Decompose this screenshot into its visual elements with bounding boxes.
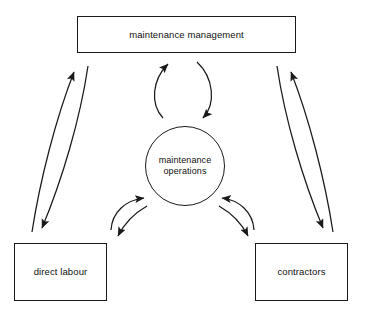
connector-direct-labour-to-operations [111, 198, 144, 230]
diagram-canvas: maintenance management maintenance opera… [0, 0, 367, 315]
node-label-direct-labour: direct labour [34, 266, 88, 278]
node-contractors[interactable]: contractors [255, 243, 348, 301]
connector-operations-to-contractors [219, 206, 248, 236]
connector-direct-labour-to-management [32, 72, 74, 232]
connector-operations-to-direct-labour [118, 206, 147, 236]
node-label-maintenance-operations-line2: operations [163, 166, 206, 178]
connector-management-to-contractors [277, 66, 323, 228]
connector-contractors-to-management [291, 72, 333, 232]
connector-management-to-direct-labour [42, 66, 88, 228]
node-label-maintenance-management: maintenance management [129, 29, 244, 41]
node-label-maintenance-operations-line1: maintenance [159, 155, 212, 167]
connector-contractors-to-operations [222, 198, 254, 230]
node-maintenance-operations[interactable]: maintenance operations [145, 126, 225, 206]
node-maintenance-management[interactable]: maintenance management [77, 16, 296, 53]
node-label-contractors: contractors [277, 266, 325, 278]
node-direct-labour[interactable]: direct labour [14, 243, 107, 301]
connector-management-to-operations [197, 62, 211, 118]
connector-operations-to-management [154, 64, 168, 118]
